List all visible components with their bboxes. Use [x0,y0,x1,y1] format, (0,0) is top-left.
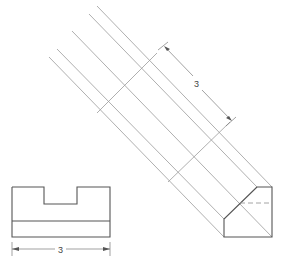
projection-line-3 [72,31,272,237]
reference-line-upper [97,53,157,113]
depth-dimension: 3 [158,42,236,126]
arrowhead-right [103,247,110,251]
width-dimension-label: 3 [58,245,63,255]
arrowhead-bottom [226,116,232,121]
width-dimension: 3 [12,242,110,256]
technical-drawing: 3 3 [0,0,283,262]
projection-line-4 [57,49,224,219]
arrowhead-left [12,247,19,251]
dimension-line-upper [165,47,193,76]
arrowhead-top [164,46,170,51]
reference-lines [97,53,230,182]
depth-dimension-label: 3 [194,79,199,89]
projection-line-1 [97,6,272,187]
front-view [12,187,110,237]
front-view-outline [12,187,110,237]
projection-lines [49,6,272,237]
projection-line-2 [89,14,257,187]
dimension-line-lower [202,90,231,120]
reference-line-lower [168,122,230,182]
